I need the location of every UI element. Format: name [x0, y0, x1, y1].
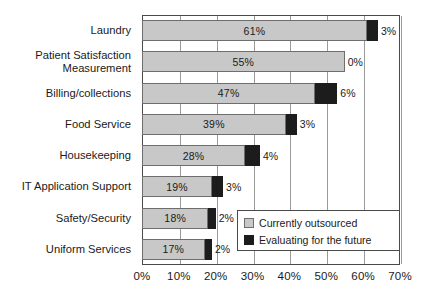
bar-value-label-evaluating: 3%	[378, 20, 396, 41]
category-label-line: IT Application Support	[0, 180, 131, 193]
chart-legend: Currently outsourced Evaluating for the …	[237, 210, 400, 251]
bar-segment-evaluating[interactable]	[205, 239, 212, 260]
stacked-bar[interactable]: 47%	[142, 83, 337, 104]
stacked-bar[interactable]: 61%	[142, 20, 378, 41]
category-label-line: Billing/collections	[0, 87, 131, 100]
stacked-bar[interactable]: 55%	[142, 51, 345, 72]
stacked-bar[interactable]: 28%	[142, 145, 260, 166]
x-axis-tick: 50%	[314, 270, 338, 282]
bar-segment-outsourced[interactable]: 47%	[142, 83, 315, 104]
bar-segment-evaluating[interactable]	[245, 145, 260, 166]
legend-label-evaluating: Evaluating for the future	[259, 234, 371, 246]
category-label: Patient SatisfactionMeasurement	[0, 47, 136, 77]
stacked-bar-chart: LaundryPatient SatisfactionMeasurementBi…	[0, 0, 425, 301]
stacked-bar[interactable]: 19%	[142, 176, 223, 197]
x-axis-tick: 20%	[204, 270, 228, 282]
category-label: Safety/Security	[0, 208, 136, 229]
bar-row: 55%0%	[142, 51, 400, 72]
category-label-line: Housekeeping	[0, 149, 131, 162]
stacked-bar[interactable]: 39%	[142, 114, 297, 135]
bar-segment-outsourced[interactable]: 18%	[142, 208, 208, 229]
category-label: Housekeeping	[0, 145, 136, 166]
bar-value-label-evaluating: 3%	[223, 176, 241, 197]
x-axis-tick-labels: 0%10%20%30%40%50%60%70%	[0, 270, 425, 290]
category-label-line: Measurement	[0, 62, 131, 75]
bar-value-label-outsourced: 28%	[143, 146, 244, 165]
category-label-line: Uniform Services	[0, 243, 131, 256]
x-axis-tick: 10%	[167, 270, 191, 282]
bar-segment-evaluating[interactable]	[367, 20, 378, 41]
category-label: Billing/collections	[0, 83, 136, 104]
x-axis-tick: 40%	[278, 270, 302, 282]
category-axis-labels: LaundryPatient SatisfactionMeasurementBi…	[0, 15, 136, 265]
bar-segment-evaluating[interactable]	[212, 176, 223, 197]
category-label-line: Patient Satisfaction	[0, 49, 131, 62]
category-label-line: Laundry	[0, 24, 131, 37]
bar-value-label-evaluating: 2%	[216, 208, 234, 229]
legend-swatch-evaluating-icon	[244, 235, 254, 245]
stacked-bar[interactable]: 17%	[142, 239, 212, 260]
x-axis-tick: 0%	[133, 270, 150, 282]
x-axis-tick: 60%	[351, 270, 375, 282]
bar-value-label-outsourced: 18%	[143, 209, 207, 228]
legend-swatch-outsourced-icon	[244, 218, 254, 228]
bar-row: 61%3%	[142, 20, 400, 41]
legend-item-evaluating: Evaluating for the future	[244, 231, 395, 248]
bar-segment-evaluating[interactable]	[286, 114, 297, 135]
bar-row: 47%6%	[142, 83, 400, 104]
bar-value-label-evaluating: 0%	[345, 51, 363, 72]
bar-segment-evaluating[interactable]	[208, 208, 215, 229]
category-label-line: Food Service	[0, 118, 131, 131]
category-label: Uniform Services	[0, 239, 136, 260]
bar-row: 19%3%	[142, 176, 400, 197]
bar-value-label-outsourced: 61%	[143, 21, 366, 40]
x-axis-tick: 70%	[388, 270, 412, 282]
bar-segment-evaluating[interactable]	[315, 83, 337, 104]
gridline	[401, 16, 402, 264]
legend-label-outsourced: Currently outsourced	[259, 217, 357, 229]
bar-segment-outsourced[interactable]: 17%	[142, 239, 205, 260]
category-label-line: Safety/Security	[0, 212, 131, 225]
bar-segment-outsourced[interactable]: 61%	[142, 20, 367, 41]
x-axis-tick: 30%	[241, 270, 265, 282]
bar-segment-outsourced[interactable]: 55%	[142, 51, 345, 72]
bar-segment-outsourced[interactable]: 28%	[142, 145, 245, 166]
bar-row: 28%4%	[142, 145, 400, 166]
bar-value-label-outsourced: 19%	[143, 177, 211, 196]
category-label: IT Application Support	[0, 176, 136, 197]
bar-value-label-evaluating: 6%	[337, 83, 355, 104]
category-label: Laundry	[0, 20, 136, 41]
stacked-bar[interactable]: 18%	[142, 208, 216, 229]
bar-value-label-outsourced: 47%	[143, 84, 314, 103]
legend-item-outsourced: Currently outsourced	[244, 214, 395, 231]
bar-segment-outsourced[interactable]: 19%	[142, 176, 212, 197]
bar-value-label-evaluating: 2%	[212, 239, 230, 260]
bar-value-label-outsourced: 55%	[143, 52, 344, 71]
bar-segment-outsourced[interactable]: 39%	[142, 114, 286, 135]
bar-value-label-evaluating: 4%	[260, 145, 278, 166]
bar-value-label-outsourced: 17%	[143, 240, 204, 259]
category-label: Food Service	[0, 114, 136, 135]
bar-row: 39%3%	[142, 114, 400, 135]
bar-value-label-evaluating: 3%	[297, 114, 315, 135]
bar-value-label-outsourced: 39%	[143, 115, 285, 134]
